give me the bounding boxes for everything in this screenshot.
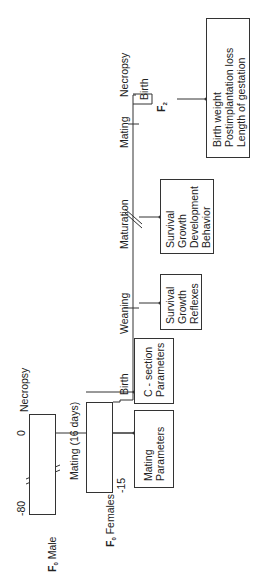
timeline-mating: Mating	[118, 116, 130, 148]
maturation-line-1: Survival	[164, 211, 176, 248]
tick-minus-15: -15	[115, 478, 127, 493]
f0-females-suffix: Females	[104, 494, 116, 537]
male-necropsy-label: Necropsy	[18, 368, 30, 412]
weaning-line-1: Survival	[164, 287, 176, 324]
f0-females-bar	[86, 402, 113, 493]
maturation-line-4: Behavior	[200, 207, 212, 248]
tick-zero: 0	[15, 430, 27, 436]
weaning-line-2: Growth	[176, 290, 188, 324]
f0-male-suffix: Male	[46, 537, 58, 563]
csection-parameters-box: C - section Parameters	[134, 338, 174, 404]
maturation-line-3: Development	[188, 186, 200, 248]
weaning-line-3: Reflexes	[188, 283, 200, 324]
timeline-maturation: Maturation	[118, 199, 130, 249]
mating-params-line-2: Parameters	[154, 427, 166, 481]
mating-16-days-label: Mating (16 days)	[68, 402, 80, 480]
weaning-outcomes-box: Survival Growth Reflexes	[160, 274, 202, 330]
f2-outcome-line-2: Postimplantation loss	[223, 48, 235, 147]
timeline-necropsy: Necropsy	[118, 53, 130, 97]
mating-params-line-1: Mating	[142, 449, 154, 481]
f2-sub: 2	[162, 102, 168, 105]
tick-minus-80: -80	[15, 501, 27, 516]
f0-male-bar	[29, 414, 56, 515]
f2-birth-outcomes-box: Birth weight Postimplantation loss Lengt…	[206, 18, 250, 158]
f2-outcome-line-3: Length of gestation	[235, 58, 247, 147]
study-design-diagram: F0 Male -80 0 Necropsy F0 Females -15 Ma…	[0, 0, 274, 580]
f0-male-f: F	[46, 566, 58, 572]
f2-outcome-line-1: Birth weight	[211, 92, 223, 147]
f0-male-label: F0 Male	[46, 537, 62, 572]
f0-females-label: F0 Females	[104, 494, 120, 547]
f2-f: F	[155, 106, 167, 112]
f0-females-f: F	[104, 541, 116, 547]
timeline-birth: Birth	[118, 373, 130, 395]
mating-parameters-box: Mating Parameters	[134, 410, 174, 488]
maturation-line-2: Growth	[176, 214, 188, 248]
f0-male-sub: 0	[53, 562, 59, 565]
csection-line-1: C - section	[142, 347, 154, 397]
f0-females-sub: 0	[111, 537, 117, 540]
f2-label: F2	[155, 102, 171, 112]
f2-birth-label: Birth	[138, 78, 150, 100]
maturation-outcomes-box: Survival Growth Development Behavior	[160, 179, 214, 254]
csection-line-2: Parameters	[154, 343, 166, 397]
timeline-weaning: Weaning	[118, 293, 130, 334]
